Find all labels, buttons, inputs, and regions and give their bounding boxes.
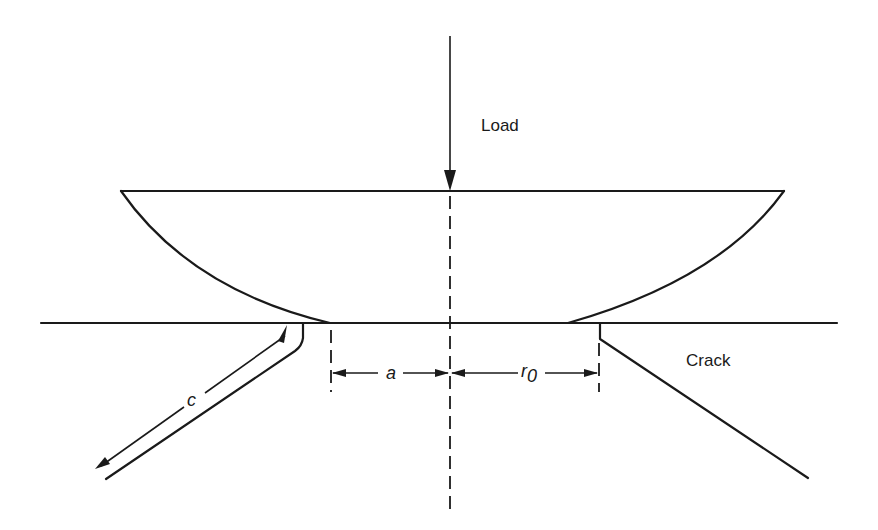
left-crack (106, 324, 303, 479)
indenter-right-flank (568, 191, 784, 323)
load-label: Load (481, 117, 519, 134)
dim-c-line-lower (101, 407, 184, 466)
right-crack (600, 324, 808, 478)
crack-label: Crack (686, 352, 730, 369)
arrow-right-icon (584, 369, 598, 377)
arrow-down-left-icon (95, 457, 110, 469)
arrow-right-icon (435, 369, 449, 377)
r0-subscript: 0 (527, 366, 537, 386)
arrow-left-icon (451, 369, 465, 377)
indenter-lens (121, 191, 784, 323)
indenter-left-flank (121, 191, 330, 323)
dimension-r0-label: r0 (521, 362, 537, 380)
arrow-left-icon (332, 369, 346, 377)
load-arrow (444, 36, 456, 191)
arrow-down-icon (444, 170, 456, 191)
arrow-up-icon (278, 325, 287, 343)
indentation-diagram (0, 0, 878, 530)
dimension-a-label: a (386, 364, 396, 382)
dimension-c-label: c (187, 391, 196, 409)
